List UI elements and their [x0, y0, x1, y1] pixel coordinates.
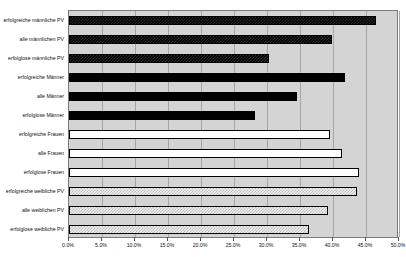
bar-row — [69, 87, 397, 106]
x-axis-label: 45.0% — [358, 241, 373, 249]
y-axis-label: erfolgreiche männliche PV — [3, 17, 64, 23]
y-axis-label: alle männlichen PV — [20, 36, 64, 42]
bar-row — [69, 106, 397, 125]
y-axis-label: alle Frauen — [38, 150, 64, 156]
x-axis-label: 25.0% — [226, 241, 241, 249]
y-axis-label: alle Männer — [37, 93, 64, 99]
y-axis-label: alle weiblichen PV — [22, 207, 64, 213]
bar-row — [69, 144, 397, 163]
bar-rows — [69, 11, 397, 237]
bar-row — [69, 125, 397, 144]
x-axis-label: 50.0% — [391, 241, 406, 249]
y-axis-label: erfolglose weibliche PV — [10, 226, 64, 232]
bar[interactable] — [69, 187, 357, 196]
plot-area — [68, 10, 398, 238]
bar[interactable] — [69, 130, 330, 139]
bar-row — [69, 201, 397, 220]
bar[interactable] — [69, 168, 359, 177]
bar-row — [69, 30, 397, 49]
bar[interactable] — [69, 206, 328, 215]
chart-title — [0, 0, 406, 4]
y-axis-label: erfolglose Frauen — [24, 169, 64, 175]
x-axis-labels: 0.0%5.0%10.0%15.0%20.0%25.0%30.0%35.0%40… — [68, 241, 398, 253]
x-axis-label: 30.0% — [259, 241, 274, 249]
bar[interactable] — [69, 73, 345, 82]
x-axis-label: 10.0% — [127, 241, 142, 249]
bar[interactable] — [69, 225, 309, 234]
bar[interactable] — [69, 149, 342, 158]
x-axis-label: 20.0% — [193, 241, 208, 249]
gridline — [399, 11, 400, 237]
x-axis-label: 5.0% — [95, 241, 107, 249]
bar-row — [69, 11, 397, 30]
bar-row — [69, 182, 397, 201]
bar-row — [69, 163, 397, 182]
chart-container: erfolgreiche männliche PValle männlichen… — [0, 0, 406, 264]
bar[interactable] — [69, 54, 269, 63]
y-axis-label: erfolgreiche Frauen — [19, 131, 64, 137]
bar-row — [69, 68, 397, 87]
bar[interactable] — [69, 92, 297, 101]
x-axis-label: 35.0% — [292, 241, 307, 249]
y-axis-label: erfolglose männliche PV — [8, 55, 64, 61]
y-axis-label: erfolgreiche weibliche PV — [6, 188, 64, 194]
bar[interactable] — [69, 111, 255, 120]
x-axis-label: 0.0% — [62, 241, 74, 249]
y-axis-label: erfolgreiche Männer — [18, 74, 64, 80]
bar[interactable] — [69, 35, 332, 44]
x-axis-label: 40.0% — [325, 241, 340, 249]
x-axis-label: 15.0% — [160, 241, 175, 249]
y-axis-label: erfolglose Männer — [22, 112, 64, 118]
y-axis-labels: erfolgreiche männliche PValle männlichen… — [0, 10, 66, 238]
bar-row — [69, 49, 397, 68]
bar[interactable] — [69, 16, 376, 25]
